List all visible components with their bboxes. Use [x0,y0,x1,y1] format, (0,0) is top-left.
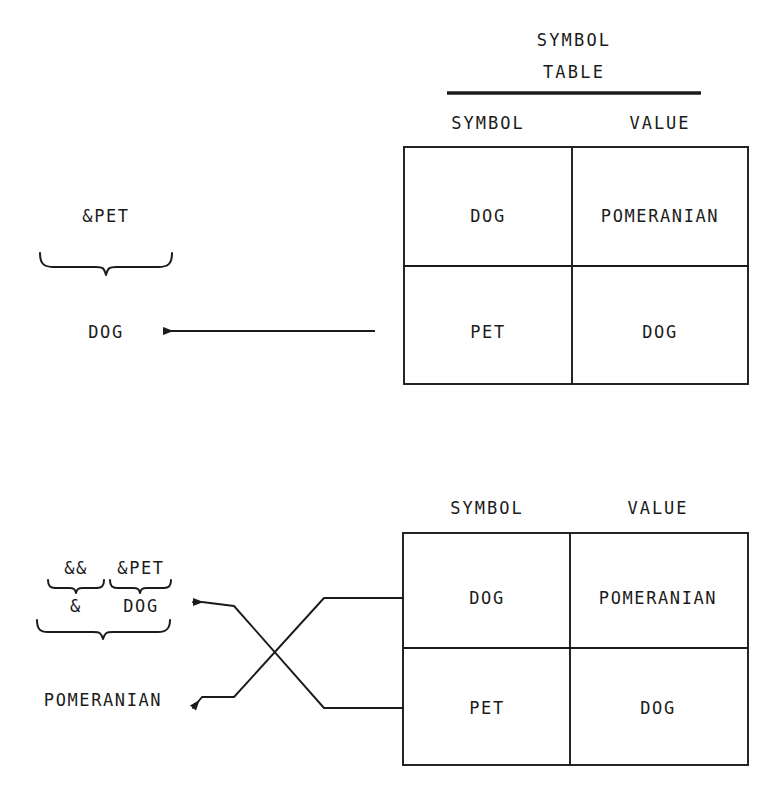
brace-amp-dog [37,620,170,639]
table-2-cell-symbol-dog: DOG [469,588,505,608]
table-2-column-header-symbol: SYMBOL [450,498,523,518]
connector-pet-row-to-expression [193,602,403,708]
table-2-outline [403,533,748,765]
expression-input-amp-pet: &PET [82,206,129,226]
expression-result-pomeranian: POMERANIAN [44,690,162,710]
symbol-table-2 [403,533,748,765]
symbol-table-1 [404,147,748,384]
symbol-table-title-line2: TABLE [543,62,605,82]
expression-result-dog: DOG [88,322,124,342]
table-2-cell-symbol-pet: PET [469,698,505,718]
table-2-cell-value-pomeranian: POMERANIAN [599,588,717,608]
table-1-column-header-value: VALUE [629,113,690,133]
diagram-page: SYMBOL TABLE SYMBOL VALUE DOG POMERANIAN… [0,0,782,797]
table-2-column-header-value: VALUE [627,498,688,518]
table-1-column-header-symbol: SYMBOL [451,113,524,133]
table-1-cell-value-pomeranian: POMERANIAN [601,206,719,226]
expression-token-amp-pet: &PET [117,558,164,578]
table-1-cell-symbol-pet: PET [470,322,506,342]
brace-ampersand-ampersand [48,580,104,593]
expression-token-single-ampersand: & [70,596,82,616]
brace-amp-pet [110,580,171,593]
table-2-cell-value-dog: DOG [640,698,676,718]
expression-token-double-ampersand: && [64,558,88,578]
table-1-cell-symbol-dog: DOG [470,206,506,226]
table-1-cell-value-dog: DOG [642,322,678,342]
symbol-table-title-line1: SYMBOL [537,30,612,50]
connector-dog-row-to-pomeranian [193,598,403,708]
brace-pet [40,253,172,275]
expression-token-dog: DOG [123,596,159,616]
